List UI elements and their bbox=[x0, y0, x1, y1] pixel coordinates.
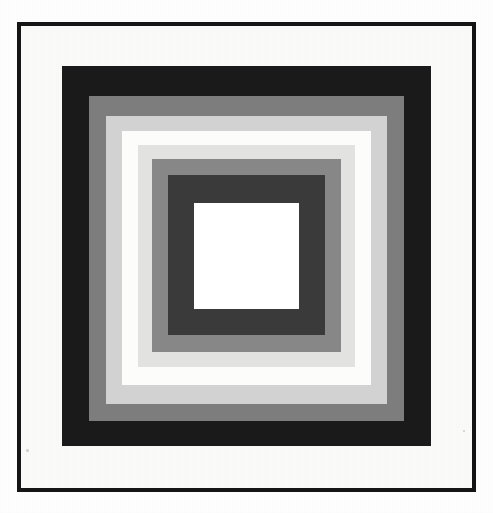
artwork-canvas bbox=[0, 0, 493, 513]
square-band-8 bbox=[194, 203, 299, 309]
